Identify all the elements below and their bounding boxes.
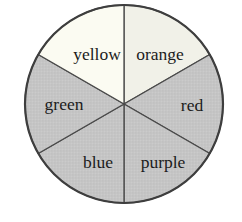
- slice-label-yellow: yellow: [73, 44, 121, 64]
- slice-label-red: red: [181, 95, 204, 115]
- spinner-figure: orangeredpurplebluegreenyellow: [0, 0, 242, 222]
- slice-label-blue: blue: [83, 152, 113, 172]
- slice-label-purple: purple: [141, 152, 186, 172]
- slice-label-orange: orange: [136, 44, 184, 64]
- slice-label-green: green: [45, 94, 84, 114]
- pie-chart-svg: orangeredpurplebluegreenyellow: [0, 0, 242, 222]
